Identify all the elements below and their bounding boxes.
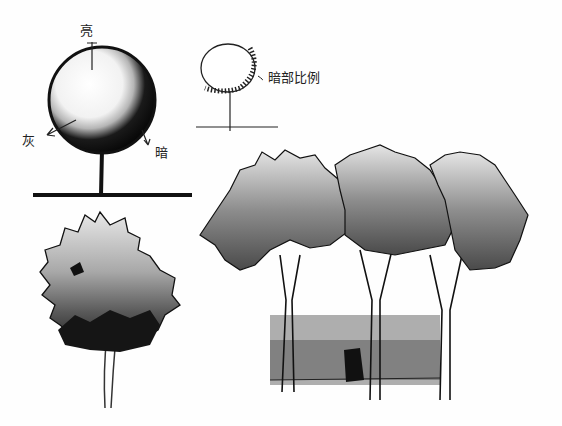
three-trees-row: [200, 145, 528, 400]
label-light: 亮: [80, 24, 93, 37]
sphere-tree-study: [33, 42, 192, 195]
sketch-drawing: [0, 0, 562, 426]
label-dark: 暗: [155, 146, 168, 159]
small-tree: [40, 212, 180, 408]
label-shadow-ratio: 暗部比例: [268, 71, 320, 84]
sketch-canvas: 亮 灰 暗 暗部比例: [0, 0, 562, 426]
shadow-ratio-study: [196, 44, 278, 131]
label-gray: 灰: [22, 134, 35, 147]
